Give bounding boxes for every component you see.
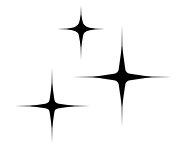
sparkles-icon xyxy=(0,0,191,152)
sparkle-top-icon xyxy=(57,5,105,60)
sparkle-bottom-left-icon xyxy=(15,68,90,143)
sparkle-right-icon xyxy=(73,25,172,127)
